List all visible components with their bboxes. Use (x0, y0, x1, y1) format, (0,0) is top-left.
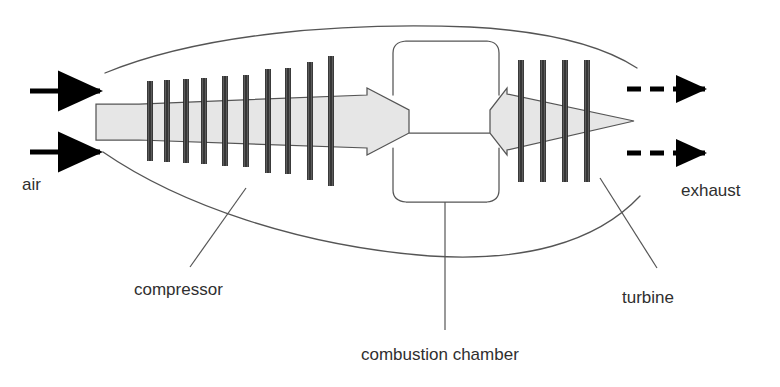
blade-row (147, 81, 152, 161)
nacelle-lower-arc (103, 152, 640, 257)
nacelle-upper-arc (105, 26, 637, 73)
jet-engine-diagram: air compressor combustion chamber turbin… (0, 0, 780, 387)
blade-row (584, 60, 589, 182)
label-exhaust: exhaust (681, 181, 741, 200)
label-air: air (22, 175, 41, 194)
exhaust-flow-arrows (627, 89, 705, 153)
compressor-leader-line (190, 188, 246, 267)
label-combustion-chamber: combustion chamber (361, 345, 519, 364)
engine-schematic-canvas: air compressor combustion chamber turbin… (0, 0, 780, 387)
air-intake-arrows (30, 91, 100, 152)
rotor-spool-body (96, 88, 634, 155)
blade-row (307, 62, 312, 180)
blade-row (183, 79, 188, 163)
label-compressor: compressor (134, 280, 223, 299)
blade-row (201, 78, 206, 164)
blade-row (164, 80, 169, 162)
blade-row (222, 76, 227, 166)
blade-row (328, 56, 333, 186)
label-leader-lines (190, 178, 657, 330)
blade-row (243, 75, 248, 167)
blade-row (540, 60, 545, 182)
combustion-chamber-upper-wall (393, 41, 499, 95)
blade-row (562, 60, 567, 182)
blade-row (285, 68, 290, 174)
blade-row (518, 60, 523, 182)
label-turbine: turbine (622, 288, 674, 307)
turbine-leader-line (600, 178, 657, 268)
combustion-chamber-lower-wall (393, 148, 499, 202)
blade-row (265, 69, 270, 173)
